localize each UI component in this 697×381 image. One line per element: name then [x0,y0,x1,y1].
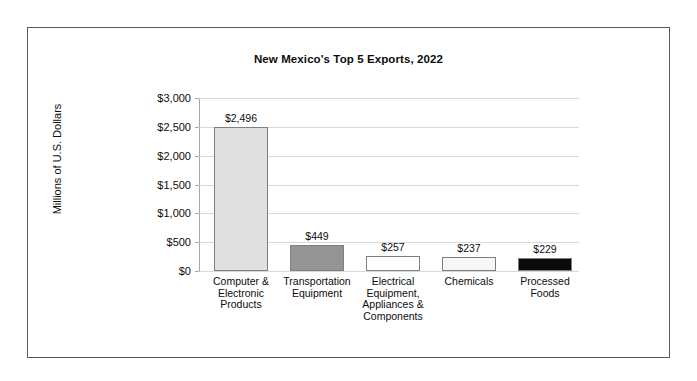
bar-value-label: $2,496 [225,112,257,124]
y-axis-tick [195,98,199,99]
category-label: TransportationEquipment [274,276,360,299]
bar [366,256,420,271]
y-axis-tick [195,127,199,128]
bar-value-label: $237 [457,242,480,254]
y-axis-tick [195,156,199,157]
y-axis-tick [195,185,199,186]
category-label: ProcessedFoods [502,276,588,299]
y-axis-tick [195,213,199,214]
plot-area: $3,000$2,500$2,000$1,500$1,000$500$0 $2,… [199,98,579,271]
y-axis-title: Millions of U.S. Dollars [51,79,63,239]
bar-value-label: $257 [381,241,404,253]
y-axis-tick [195,271,199,272]
y-axis-tick-label: $2,000 [157,150,191,162]
chart-frame: New Mexico's Top 5 Exports, 2022 Million… [27,27,670,358]
category-label: ElectricalEquipment,Appliances &Componen… [350,276,436,322]
category-label-line: Transportation [274,276,360,288]
category-label-line: Components [350,311,436,323]
category-label-line: Computer & [198,276,284,288]
category-label-line: Foods [502,288,588,300]
gridline [199,271,579,272]
category-label-line: Equipment [274,288,360,300]
bar [518,258,572,271]
category-label-line: Processed [502,276,588,288]
bar-value-label: $229 [533,243,556,255]
category-label-line: Appliances & [350,299,436,311]
y-axis-tick-label: $1,000 [157,207,191,219]
category-label-line: Electrical [350,276,436,288]
y-axis-tick-label: $3,000 [157,92,191,104]
category-label-line: Products [198,299,284,311]
y-axis-tick-label: $1,500 [157,179,191,191]
y-axis-tick-label: $500 [167,236,191,248]
bar [442,257,496,271]
y-axis-tick [195,242,199,243]
bar-value-label: $449 [305,230,328,242]
gridline [199,98,579,99]
bar [214,127,268,271]
category-label: Computer &ElectronicProducts [198,276,284,311]
category-label: Chemicals [426,276,512,288]
bar [290,245,344,271]
chart-title: New Mexico's Top 5 Exports, 2022 [28,53,669,65]
category-label-line: Chemicals [426,276,512,288]
y-axis-tick-label: $0 [179,265,191,277]
y-axis-tick-label: $2,500 [157,121,191,133]
